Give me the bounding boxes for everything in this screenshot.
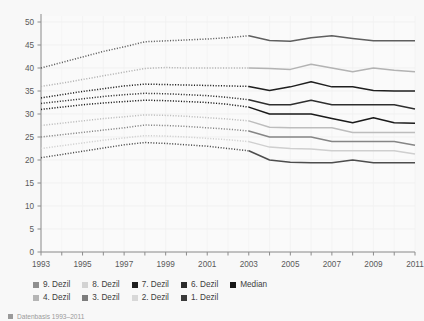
legend-row-2: 4. Dezil3. Dezil2. Dezil1. Dezil [0, 291, 424, 304]
legend-swatch-icon [82, 295, 88, 301]
legend-swatch-icon [230, 282, 236, 288]
y-tick-label: 45 [25, 41, 35, 50]
legend-item[interactable]: 3. Dezil [82, 293, 119, 303]
legend-item[interactable]: 9. Dezil [33, 280, 70, 290]
legend-swatch-icon [33, 295, 39, 301]
legend-item-label: 9. Dezil [43, 280, 70, 290]
legend-item[interactable]: 4. Dezil [33, 293, 70, 303]
legend-row-1: 9. Dezil8. Dezil7. Dezil6. DezilMedian [0, 278, 424, 291]
x-tick-label: 2005 [281, 260, 300, 269]
legend-item-label: Median [240, 280, 267, 290]
legend-swatch-icon [132, 282, 138, 288]
legend-item[interactable]: 2. Dezil [132, 293, 169, 303]
y-tick-label: 20 [25, 156, 35, 165]
legend-swatch-icon [132, 295, 138, 301]
chart-plot-area: 0510152025303540455019931995199719992001… [0, 0, 424, 270]
legend-item-label: 7. Dezil [142, 280, 169, 290]
legend-item-label: 6. Dezil [191, 280, 218, 290]
footnote-marker-icon [8, 314, 13, 319]
legend-item[interactable]: 7. Dezil [132, 280, 169, 290]
y-tick-label: 15 [25, 179, 35, 188]
legend-item[interactable]: Median [230, 280, 267, 290]
x-tick-label: 1997 [115, 260, 134, 269]
y-tick-label: 25 [25, 133, 35, 142]
chart-screenshot: 0510152025303540455019931995199719992001… [0, 0, 424, 321]
legend-swatch-icon [33, 282, 39, 288]
legend-item-label: 8. Dezil [92, 280, 119, 290]
x-tick-label: 2009 [364, 260, 383, 269]
legend-item-label: 1. Dezil [191, 293, 218, 303]
chart-footnote: Datenbasis 1993–2011 [8, 312, 418, 321]
y-tick-label: 50 [25, 18, 35, 27]
legend-swatch-icon [181, 295, 187, 301]
legend-item-label: 4. Dezil [43, 293, 70, 303]
y-tick-label: 35 [25, 87, 35, 96]
legend-item[interactable]: 1. Dezil [181, 293, 218, 303]
y-tick-label: 0 [29, 248, 34, 257]
legend-item-label: 2. Dezil [142, 293, 169, 303]
x-tick-label: 2011 [406, 260, 424, 269]
x-tick-label: 2003 [240, 260, 259, 269]
x-tick-label: 2007 [323, 260, 342, 269]
x-tick-label: 1999 [157, 260, 176, 269]
legend-swatch-icon [82, 282, 88, 288]
decile-line-chart: 0510152025303540455019931995199719992001… [0, 0, 424, 270]
y-tick-label: 10 [25, 202, 35, 211]
footnote-text: Datenbasis 1993–2011 [17, 313, 84, 320]
y-tick-label: 5 [29, 225, 34, 234]
legend-item-label: 3. Dezil [92, 293, 119, 303]
chart-legend: 9. Dezil8. Dezil7. Dezil6. DezilMedian 4… [0, 278, 424, 304]
y-tick-label: 30 [25, 110, 35, 119]
legend-item[interactable]: 8. Dezil [82, 280, 119, 290]
legend-item[interactable]: 6. Dezil [181, 280, 218, 290]
x-tick-label: 1993 [32, 260, 51, 269]
x-tick-label: 1995 [73, 260, 92, 269]
x-tick-label: 2001 [198, 260, 217, 269]
y-tick-label: 40 [25, 64, 35, 73]
legend-swatch-icon [181, 282, 187, 288]
